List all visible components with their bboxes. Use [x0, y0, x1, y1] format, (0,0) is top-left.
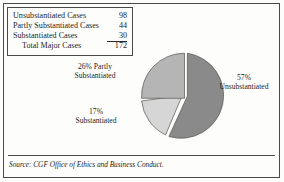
- pie-label-unsubstantiated-percent: 57%: [208, 73, 280, 82]
- pie-label-partly-substantiated: 26% Partly Substantiated: [56, 62, 134, 81]
- table-cell-value: 30: [107, 31, 127, 41]
- table-cell-value: 172: [107, 41, 127, 51]
- table-row: Substantiated Cases 30: [13, 31, 127, 41]
- pie-label-substantiated: 17% Substantiated: [58, 107, 134, 126]
- pie-slice-partly-substantiated: [142, 53, 185, 98]
- pie-chart: [139, 49, 233, 143]
- pie-label-partly-name: Substantiated: [56, 71, 134, 80]
- source-note: Source: CGF Office of Ethics and Busines…: [9, 160, 164, 169]
- figure-container: Unsubstantiated Cases 98 Partly Substant…: [0, 0, 284, 182]
- pie-label-unsubstantiated: 57% Unsubstantiated: [208, 73, 280, 92]
- summary-table: Unsubstantiated Cases 98 Partly Substant…: [13, 11, 127, 52]
- pie-label-substantiated-name: Substantiated: [58, 116, 134, 125]
- table-cell-value: 44: [107, 21, 127, 31]
- table-row-total: Total Major Cases 172: [13, 41, 127, 51]
- pie-label-unsubstantiated-name: Unsubstantiated: [208, 82, 280, 91]
- summary-table-box: Unsubstantiated Cases 98 Partly Substant…: [7, 7, 133, 56]
- table-cell-label: Substantiated Cases: [13, 31, 107, 41]
- table-cell-label: Partly Substantiated Cases: [13, 21, 107, 31]
- table-cell-value: 98: [107, 11, 127, 21]
- table-cell-label: Unsubstantiated Cases: [13, 11, 107, 21]
- table-cell-label: Total Major Cases: [13, 41, 107, 51]
- pie-label-substantiated-percent: 17%: [58, 107, 134, 116]
- table-row: Unsubstantiated Cases 98: [13, 11, 127, 21]
- pie-label-partly-percent: 26% Partly: [56, 62, 134, 71]
- table-row: Partly Substantiated Cases 44: [13, 21, 127, 31]
- source-divider: [8, 155, 275, 156]
- pie-chart-svg: [139, 49, 233, 143]
